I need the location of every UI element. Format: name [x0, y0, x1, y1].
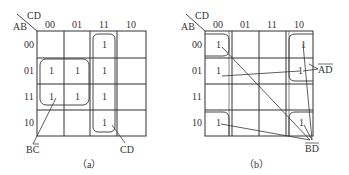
row-label-10: 10 [192, 117, 202, 128]
cell-r2-c0: 1 [49, 91, 54, 102]
cell-r1-c0: 1 [49, 65, 54, 76]
col-label-01: 01 [72, 19, 82, 30]
cell-r1-c2: 1 [102, 65, 107, 76]
group-label-cd: CD [120, 144, 134, 155]
group-label-bd: BD [305, 143, 319, 154]
col-label-00: 00 [213, 19, 223, 30]
cell-r0-c0: 1 [216, 39, 221, 50]
leader-line-ad-left [222, 71, 300, 76]
kmap-b: CD AB 00 01 11 10 00 01 11 10 1 1 1 1 1 … [181, 10, 333, 170]
caption-a: （a） [77, 159, 101, 170]
row-label-01: 01 [192, 65, 202, 76]
row-label-01: 01 [24, 65, 34, 76]
row-var-label: AB [181, 21, 195, 32]
grid [37, 31, 146, 136]
col-label-11: 11 [267, 19, 277, 30]
cell-r3-c2: 1 [102, 117, 107, 128]
leader-line-cd [112, 125, 125, 143]
col-var-label: CD [27, 10, 41, 21]
cell-r3-c0: 1 [216, 117, 221, 128]
col-label-10: 10 [294, 19, 304, 30]
cell-r2-c1: 1 [75, 91, 80, 102]
cell-r2-c2: 1 [102, 91, 107, 102]
row-var-label: AB [13, 21, 27, 32]
row-label-00: 00 [192, 39, 202, 50]
kmap-a: CD AB 00 01 11 10 00 01 11 10 1 1 1 1 1 … [13, 10, 146, 170]
row-label-00: 00 [24, 39, 34, 50]
grid [205, 31, 313, 136]
cell-r1-c3: 1 [298, 65, 303, 76]
leader-line-bd-tl [222, 47, 310, 140]
cell-r1-c1: 1 [75, 65, 80, 76]
col-label-01: 01 [240, 19, 250, 30]
col-label-00: 00 [45, 19, 55, 30]
caption-b: （b） [244, 159, 269, 170]
row-label-11: 11 [24, 91, 34, 102]
karnaugh-maps-figure: CD AB 00 01 11 10 00 01 11 10 1 1 1 1 1 … [0, 0, 349, 175]
cell-r1-c0: 1 [216, 65, 221, 76]
group-label-bc: BC [26, 144, 40, 155]
cell-r3-c3: 1 [299, 117, 304, 128]
group-label-ad: AD [318, 64, 332, 75]
row-label-10: 10 [24, 117, 34, 128]
row-label-11: 11 [192, 91, 202, 102]
col-label-10: 10 [126, 19, 136, 30]
cell-r0-c2: 1 [102, 39, 107, 50]
col-label-11: 11 [99, 19, 109, 30]
col-var-label: CD [195, 10, 209, 21]
